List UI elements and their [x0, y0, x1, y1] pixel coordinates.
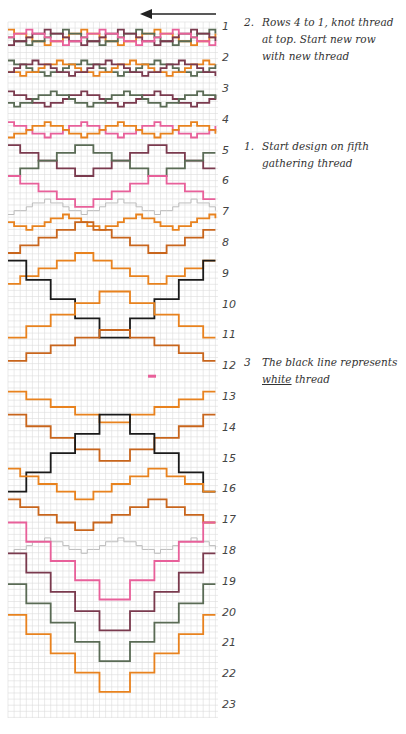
- row-number: 21: [222, 636, 242, 649]
- row-number: 17: [222, 513, 242, 526]
- row-number: 2: [222, 51, 242, 64]
- row-number: 22: [222, 667, 242, 680]
- row-number: 9: [222, 267, 242, 280]
- row-number: 1: [222, 20, 242, 33]
- row-number: 5: [222, 144, 242, 157]
- row-number: 10: [222, 298, 242, 311]
- note-knot-thread: 2.Rows 4 to 1, knot thread at top. Start…: [244, 14, 393, 65]
- row-number: 7: [222, 205, 242, 218]
- row-number: 19: [222, 575, 242, 588]
- row-number: 14: [222, 421, 242, 434]
- center-mark: [148, 375, 156, 378]
- note-black-line: 3The black line represents white thread: [244, 354, 397, 388]
- row-number: 3: [222, 82, 242, 95]
- row-number: 18: [222, 544, 242, 557]
- row-number: 16: [222, 482, 242, 495]
- row-number: 15: [222, 452, 242, 465]
- row-number: 8: [222, 236, 242, 249]
- row-number: 20: [222, 606, 242, 619]
- row-number: 12: [222, 359, 242, 372]
- row-number: 6: [222, 174, 242, 187]
- row-number: 13: [222, 390, 242, 403]
- row-number: 23: [222, 698, 242, 711]
- note-start-design: 1.Start design on fifth gathering thread: [244, 138, 369, 172]
- row-number: 4: [222, 113, 242, 126]
- row-number: 11: [222, 328, 242, 341]
- arrow-left-icon: [140, 9, 216, 19]
